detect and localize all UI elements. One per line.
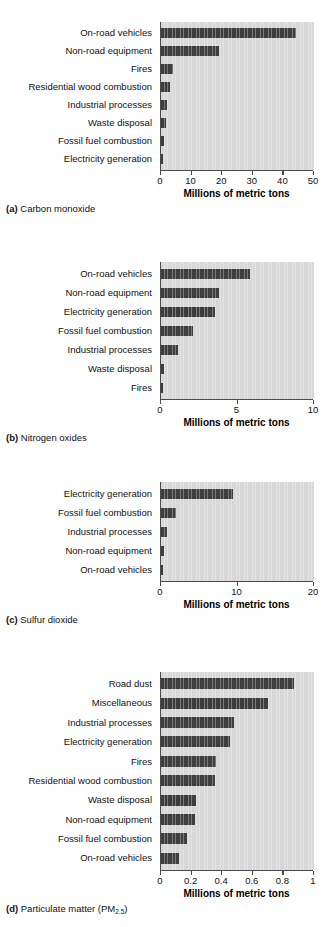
x-tick-label: 0 [157,404,162,416]
x-tick-label: 0 [157,586,162,598]
x-axis-title-c: Millions of metric tons [160,599,313,610]
bar-row [161,24,314,42]
bar-row [161,60,314,78]
category-label: Fossil fuel combustion [0,321,152,340]
bar-row [161,378,314,397]
category-label: On-road vehicles [0,264,152,283]
x-tick-label: 0 [157,175,162,187]
bar [161,326,193,336]
bar [161,345,178,355]
bar [161,546,164,556]
plot-area-c [160,482,314,581]
x-tick-label: 30 [247,175,258,187]
chart-panel-particulate-matter: Road dustMiscellaneousIndustrial process… [0,668,327,923]
category-label: Waste disposal [0,114,152,132]
category-label: Fires [0,378,152,397]
bar-row [161,674,314,693]
bar [161,154,163,164]
category-label: Non-road equipment [0,541,152,560]
panel-letter: (b) [6,432,18,443]
bar-row [161,340,314,359]
bar-row [161,114,314,132]
bar [161,288,219,298]
category-label: Electricity generation [0,732,152,751]
bar [161,775,215,786]
category-label: On-road vehicles [0,24,152,42]
bar-row [161,78,314,96]
category-label: Industrial processes [0,713,152,732]
category-label: Fossil fuel combustion [0,503,152,522]
x-tick-label: 0.8 [276,875,289,887]
x-tick-label: 1 [310,875,315,887]
x-tick-label: 40 [277,175,288,187]
bar [161,795,196,806]
panel-caption-text: Carbon monoxide [20,203,95,214]
bar [161,489,233,499]
plot-area-a [160,22,314,170]
x-axis-title-b: Millions of metric tons [160,417,313,428]
bar [161,736,230,747]
bar-row [161,560,314,579]
bar [161,64,173,74]
category-labels-d: Road dustMiscellaneousIndustrial process… [0,672,157,870]
panel-caption-c: (c) Sulfur dioxide [6,614,78,625]
bar-row [161,541,314,560]
x-tick-label: 0.4 [215,875,228,887]
panel-caption-text: Nitrogen oxides [21,432,87,443]
bar [161,136,164,146]
category-label: Waste disposal [0,790,152,809]
bar-row [161,693,314,712]
category-label: Residential wood combustion [0,771,152,790]
plot-area-d [160,672,314,870]
plot-area-b [160,262,314,399]
panel-caption-text: Sulfur dioxide [20,614,78,625]
bar [161,814,195,825]
x-tick-labels-d: 00.20.40.60.81 [160,875,313,889]
panel-letter: (a) [6,203,18,214]
category-label: Industrial processes [0,340,152,359]
pm-subscript: 2.5 [115,908,124,915]
category-label: Industrial processes [0,96,152,114]
x-tick-label: 50 [308,175,319,187]
bar-row [161,302,314,321]
category-label: Electricity generation [0,484,152,503]
bar [161,82,170,92]
x-tick-label: 20 [308,586,319,598]
x-tick-label: 0.6 [245,875,258,887]
category-label: Fossil fuel combustion [0,829,152,848]
bar-row [161,264,314,283]
category-label: Fossil fuel combustion [0,132,152,150]
bar [161,46,219,56]
category-label: On-road vehicles [0,849,152,868]
panel-caption-text: Particulate matter (PM [21,903,116,914]
category-label: Industrial processes [0,522,152,541]
category-labels-b: On-road vehiclesNon-road equipmentElectr… [0,262,157,399]
bar-row [161,42,314,60]
panel-caption-b: (b) Nitrogen oxides [6,432,87,443]
category-label: Residential wood combustion [0,78,152,96]
category-label: Road dust [0,674,152,693]
chart-panel-nitrogen-oxides: On-road vehiclesNon-road equipmentElectr… [0,258,327,466]
bar-row [161,283,314,302]
bar [161,28,296,38]
bar [161,678,294,689]
category-label: Electricity generation [0,150,152,168]
bar [161,717,234,728]
category-label: Non-road equipment [0,283,152,302]
category-labels-c: Electricity generationFossil fuel combus… [0,482,157,581]
bar-row [161,771,314,790]
bar [161,756,216,767]
chart-panel-carbon-monoxide: On-road vehiclesNon-road equipmentFiresR… [0,18,327,236]
bar-row [161,150,314,168]
category-label: Fires [0,752,152,771]
bar-row [161,810,314,829]
bar [161,853,179,864]
bar [161,565,163,575]
panel-letter: (d) [6,903,18,914]
category-label: Non-road equipment [0,42,152,60]
category-label: On-road vehicles [0,560,152,579]
category-label: Fires [0,60,152,78]
bar-row [161,849,314,868]
x-tick-label: 20 [216,175,227,187]
x-tick-label: 5 [234,404,239,416]
